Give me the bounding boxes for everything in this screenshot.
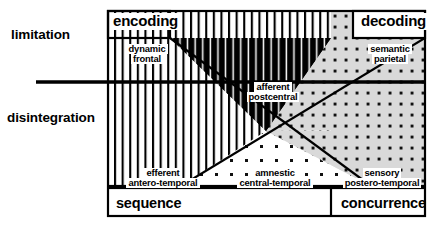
column-header-decoding: decoding (358, 13, 429, 30)
region-label-dynamic-frontal: dynamic frontal (113, 44, 181, 64)
column-header-encoding: encoding (110, 13, 181, 30)
region-label-efferent-antero-temporal: efferent antero-temporal (113, 168, 213, 188)
figure-canvas: limitation disintegration encoding decod… (0, 0, 439, 226)
region-label-line2: postcentral (247, 92, 300, 102)
region-label-line2: antero-temporal (126, 178, 199, 188)
bottom-bar-label-sequence: sequence (116, 196, 181, 211)
region-label-amnestic-central-temporal: amnestic central-temporal (222, 168, 328, 188)
region-label-sensory-postero-temporal: sensory postero-temporal (330, 168, 434, 188)
bottom-bar-label-concurrence: concurrence (341, 196, 426, 211)
region-label-line2: central-temporal (237, 178, 312, 188)
axis-label-limitation: limitation (11, 28, 70, 42)
region-label-line2: frontal (131, 54, 163, 64)
region-label-line2: parietal (372, 54, 408, 64)
axis-label-disintegration: disintegration (7, 111, 95, 125)
region-label-semantic-parietal: semantic parietal (357, 44, 423, 64)
region-label-line2: postero-temporal (343, 178, 422, 188)
region-label-afferent-postcentral: afferent postcentral (236, 82, 310, 102)
